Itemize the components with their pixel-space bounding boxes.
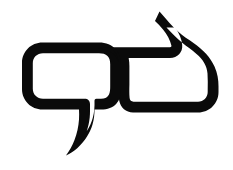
double-speech-bubble-icon bbox=[0, 0, 233, 170]
icon-canvas bbox=[0, 0, 233, 170]
